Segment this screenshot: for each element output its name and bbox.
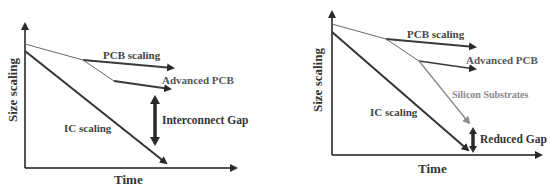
left-advanced-pcb-label: Advanced PCB [162,74,234,86]
left-panel: Size scaling Time PCB scaling Advanced P… [5,24,248,187]
right-ic-label: IC scaling [370,106,418,118]
interconnect-gap-arrow [150,95,160,146]
left-pcb-scaling-arrow [83,60,173,68]
right-pcb-label: PCB scaling [407,28,465,40]
right-y-label: Size scaling [310,48,325,112]
right-gap-label: Reduced Gap [480,133,547,146]
left-ic-label: IC scaling [64,122,112,134]
left-ic-scaling-arrow [25,51,166,163]
left-x-label: Time [114,172,143,187]
right-ic-scaling-arrow [332,32,468,150]
right-advanced-pcb-label: Advanced PCB [466,54,538,66]
right-pcb-base-line [332,24,386,39]
right-pcb-scaling-arrow [386,39,475,47]
right-silicon-label: Silicon Substrates [452,89,529,100]
scaling-diagram: Size scaling Time PCB scaling Advanced P… [0,0,550,191]
right-x-label: Time [418,161,447,176]
left-gap-label: Interconnect Gap [162,114,248,127]
reduced-gap-arrow [469,127,477,153]
left-y-label: Size scaling [5,58,20,122]
left-pcb-label: PCB scaling [103,49,161,61]
right-panel: Size scaling Time PCB scaling Advanced P… [310,12,547,176]
